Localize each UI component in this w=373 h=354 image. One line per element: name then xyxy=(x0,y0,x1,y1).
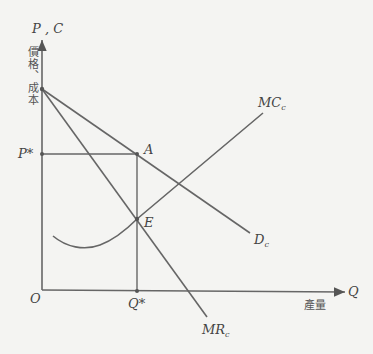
point-a-label: A xyxy=(144,143,153,156)
mr-label-main: MR xyxy=(202,322,225,337)
origin-label: O xyxy=(30,292,41,305)
demand-label-sub: c xyxy=(264,240,268,249)
marginal-cost-curve xyxy=(53,113,263,248)
demand-label-main: D xyxy=(254,232,264,247)
mc-label: MCc xyxy=(258,96,286,112)
point-e-label: E xyxy=(144,216,154,229)
quantity-label: Q* xyxy=(128,297,145,310)
x-axis-label: Q xyxy=(348,285,359,298)
x-axis xyxy=(42,290,345,292)
point-e-dot xyxy=(135,217,139,221)
mr-label-sub: c xyxy=(225,330,229,339)
intercept-dot xyxy=(40,87,44,91)
y-axis-sublabel: 價格、成本 xyxy=(25,46,38,106)
quantity-dot xyxy=(135,289,139,293)
demand-label: Dc xyxy=(254,233,269,249)
mc-label-sub: c xyxy=(281,103,285,112)
price-dot xyxy=(40,152,44,156)
x-axis-sublabel: 產量 xyxy=(304,300,326,313)
mc-label-main: MC xyxy=(258,95,281,110)
y-axis-label: P , C xyxy=(32,22,63,35)
price-label: P* xyxy=(18,147,33,160)
marginal-revenue-curve xyxy=(42,89,207,317)
mr-label: MRc xyxy=(202,323,230,339)
point-a-dot xyxy=(135,152,139,156)
